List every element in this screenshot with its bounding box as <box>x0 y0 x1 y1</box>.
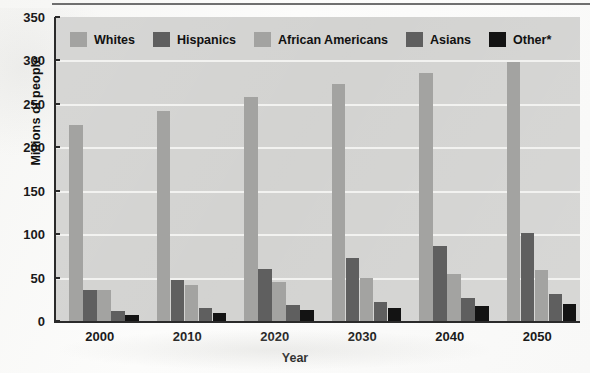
bar-2030-other <box>388 308 402 321</box>
bar-2020-asians <box>286 305 300 322</box>
x-tick-label-2020: 2020 <box>230 329 320 344</box>
legend-item-hispanics: Hispanics <box>153 32 236 47</box>
bar-2010-whites <box>157 111 171 321</box>
gridline <box>55 60 580 62</box>
y-tick-mark <box>55 146 60 148</box>
plot-wash <box>55 17 580 321</box>
population-projection-bar-chart: 050100150200250300350 Millions of people… <box>0 0 590 373</box>
bar-2040-other <box>475 306 489 321</box>
x-tick-label-2050: 2050 <box>492 329 582 344</box>
legend-item-other: Other* <box>489 32 551 47</box>
bar-2000-african-americans <box>97 290 111 321</box>
bar-2040-african-americans <box>447 274 461 321</box>
y-tick-mark <box>55 190 60 192</box>
y-tick-mark <box>55 233 60 235</box>
bar-2050-other <box>563 304 577 321</box>
legend-swatch-icon <box>254 32 271 47</box>
bar-2000-asians <box>111 311 125 321</box>
y-tick-mark <box>55 103 60 105</box>
bar-2020-hispanics <box>258 269 272 321</box>
bar-2030-whites <box>332 84 346 321</box>
bar-2020-whites <box>244 97 258 321</box>
bar-2020-other <box>300 310 314 321</box>
bar-2010-african-americans <box>185 285 199 321</box>
bar-2040-hispanics <box>433 246 447 321</box>
y-tick-mark <box>55 320 60 322</box>
bar-2040-asians <box>461 298 475 321</box>
legend-item-whites: Whites <box>70 32 135 47</box>
legend-swatch-icon <box>70 32 87 47</box>
legend-swatch-icon <box>489 32 506 47</box>
x-tick-label-2030: 2030 <box>317 329 407 344</box>
bar-2050-whites <box>507 62 521 321</box>
legend-label: Asians <box>430 33 471 47</box>
legend-label: Hispanics <box>177 33 236 47</box>
bar-2050-african-americans <box>535 270 549 321</box>
bar-2030-african-americans <box>360 278 374 321</box>
gridline <box>55 147 580 149</box>
legend-swatch-icon <box>153 32 170 47</box>
y-tick-label: 50 <box>0 271 45 284</box>
bar-2010-hispanics <box>171 280 185 321</box>
bar-2000-whites <box>69 125 83 321</box>
bar-2050-hispanics <box>521 233 535 321</box>
bar-2050-asians <box>549 294 563 321</box>
x-axis-line <box>54 321 580 323</box>
legend-item-african-americans: African Americans <box>254 32 388 47</box>
gridline <box>55 191 580 193</box>
gridline <box>55 104 580 106</box>
bar-2020-african-americans <box>272 282 286 321</box>
bar-2010-other <box>213 313 227 321</box>
y-tick-label: 0 <box>0 315 45 328</box>
legend-label: African Americans <box>278 33 388 47</box>
gridline <box>55 234 580 236</box>
x-tick-label-2040: 2040 <box>405 329 495 344</box>
legend-item-asians: Asians <box>406 32 471 47</box>
bar-2000-hispanics <box>83 290 97 321</box>
legend-swatch-icon <box>406 32 423 47</box>
gridline <box>55 278 580 280</box>
chart-legend: WhitesHispanicsAfrican AmericansAsiansOt… <box>70 32 569 47</box>
bar-2030-hispanics <box>346 258 360 321</box>
bar-2010-asians <box>199 308 213 321</box>
y-tick-mark <box>55 277 60 279</box>
legend-label: Other* <box>513 33 551 47</box>
bar-2030-asians <box>374 302 388 321</box>
x-tick-label-2010: 2010 <box>142 329 232 344</box>
x-tick-label-2000: 2000 <box>55 329 145 344</box>
y-tick-mark <box>55 59 60 61</box>
legend-label: Whites <box>94 33 135 47</box>
y-axis-title: Millions of people <box>29 21 43 201</box>
y-tick-label: 100 <box>0 228 45 241</box>
x-axis-title: Year <box>0 351 590 365</box>
plot-area <box>55 17 580 321</box>
bar-2040-whites <box>419 73 433 321</box>
y-tick-mark <box>55 16 60 18</box>
